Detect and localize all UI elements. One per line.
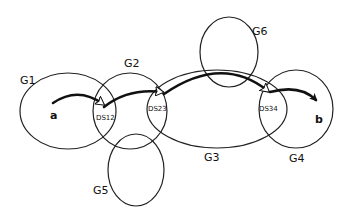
label-g3: G3 xyxy=(204,151,220,164)
label-g4: G4 xyxy=(289,152,305,165)
node-b: b xyxy=(315,113,323,126)
path-ds34-to-b xyxy=(270,89,316,100)
label-g1: G1 xyxy=(20,74,36,87)
label-g6: G6 xyxy=(252,25,268,38)
label-g5: G5 xyxy=(93,184,109,197)
label-ds12: DS12 xyxy=(96,114,115,122)
set-diagram: G1 G2 G3 G4 G5 G6 a b DS12 DS23 DS34 xyxy=(0,0,348,219)
node-a: a xyxy=(50,109,57,122)
label-ds23: DS23 xyxy=(148,105,167,113)
set-g5 xyxy=(108,134,164,206)
set-g6 xyxy=(200,17,258,87)
label-ds34: DS34 xyxy=(259,105,278,113)
label-g2: G2 xyxy=(124,57,140,70)
